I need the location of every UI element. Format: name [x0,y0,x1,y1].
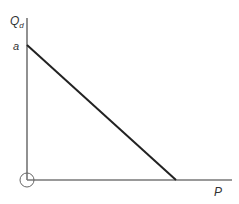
intercept-label: a [13,40,19,52]
demand-line [27,45,176,180]
y-axis-label: Qd [10,14,24,30]
x-axis-label: P [214,185,222,199]
demand-diagram: Qd a P [0,0,239,204]
